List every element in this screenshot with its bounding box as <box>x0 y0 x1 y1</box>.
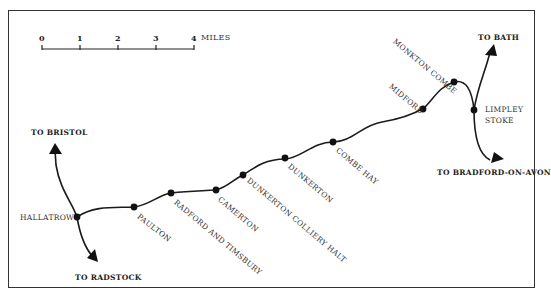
station-dot-dunkerton-colliery-halt <box>240 172 247 179</box>
scale-tick-1: 1 <box>77 33 83 43</box>
scale-tick-2: 2 <box>115 33 121 43</box>
railway-line-bath <box>474 52 490 110</box>
station-dot-limpley-stoke <box>471 107 478 114</box>
station-label-hallatrow: HALLATROW <box>20 213 74 222</box>
station-dot-dunkerton <box>282 155 289 162</box>
scale-tick-4: 4 <box>191 33 197 43</box>
station-label-limpley: LIMPLEY <box>485 105 523 114</box>
railway-line-radstock <box>77 217 93 257</box>
railway-line-bristol <box>55 150 77 217</box>
destination-bradford-on-avon: TO BRADFORD-ON-AVON <box>437 168 551 177</box>
destination-bristol: TO BRISTOL <box>31 128 88 137</box>
scale-tick-3: 3 <box>153 33 159 43</box>
station-dot-paulton <box>131 204 138 211</box>
station-dot-hallatrow <box>74 214 81 221</box>
station-label-stoke: STOKE <box>485 116 514 125</box>
arrow-bradford-icon <box>491 152 504 163</box>
scale-bar <box>42 45 194 50</box>
scale-tick-0: 0 <box>39 33 45 43</box>
scale-unit: MILES <box>201 33 230 42</box>
arrow-bristol-icon <box>49 143 62 154</box>
destination-radstock: TO RADSTOCK <box>75 273 142 282</box>
destination-bath: TO BATH <box>478 33 519 42</box>
station-dot-radford <box>168 190 175 197</box>
station-dot-combe-hay <box>330 139 337 146</box>
station-dot-camerton <box>213 187 220 194</box>
arrow-bath-icon <box>485 44 497 56</box>
